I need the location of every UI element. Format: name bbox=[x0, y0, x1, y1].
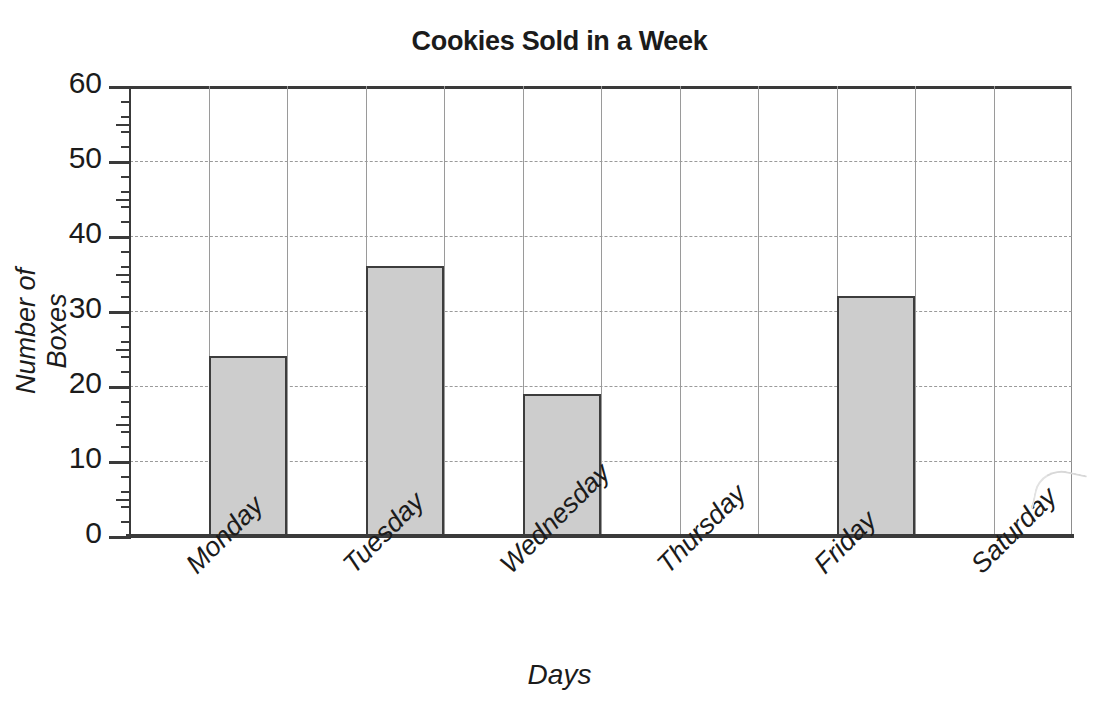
vertical-gridline bbox=[758, 86, 759, 536]
y-axis-minor-tick bbox=[121, 416, 131, 418]
y-axis-mid-tick bbox=[116, 124, 131, 126]
y-axis-minor-tick bbox=[121, 266, 131, 268]
vertical-gridline bbox=[287, 86, 288, 536]
y-axis-minor-tick bbox=[121, 371, 131, 373]
y-axis-minor-tick bbox=[121, 101, 131, 103]
y-axis-minor-tick bbox=[121, 491, 131, 493]
y-axis-mid-tick bbox=[116, 274, 131, 276]
y-axis-tick-label: 50 bbox=[40, 141, 102, 175]
x-axis-baseline bbox=[126, 534, 1074, 538]
y-axis-tick-label: 40 bbox=[40, 216, 102, 250]
x-axis-title: Days bbox=[0, 659, 1119, 691]
vertical-gridline bbox=[444, 86, 445, 536]
y-axis-minor-tick bbox=[121, 476, 131, 478]
y-axis-tick-labels: 0102030405060 bbox=[36, 0, 102, 719]
vertical-gridline bbox=[915, 86, 916, 536]
chart-page: Cookies Sold in a Week Number of Boxes 0… bbox=[0, 0, 1119, 719]
y-axis-minor-tick bbox=[121, 326, 131, 328]
y-axis-mid-tick bbox=[116, 349, 131, 351]
y-axis-minor-tick bbox=[121, 341, 131, 343]
chart-title: Cookies Sold in a Week bbox=[0, 26, 1119, 57]
bar-friday bbox=[837, 296, 915, 538]
y-axis-minor-tick bbox=[121, 206, 131, 208]
y-axis-minor-tick bbox=[121, 296, 131, 298]
y-axis-major-tick bbox=[109, 161, 131, 164]
y-axis-minor-tick bbox=[121, 281, 131, 283]
y-axis-tick-label: 0 bbox=[40, 516, 102, 550]
y-axis-minor-tick bbox=[121, 131, 131, 133]
y-axis-minor-tick bbox=[121, 221, 131, 223]
y-axis-tick-label: 20 bbox=[40, 366, 102, 400]
vertical-gridline bbox=[994, 86, 995, 536]
y-axis-minor-tick bbox=[121, 176, 131, 178]
y-axis-minor-tick bbox=[121, 251, 131, 253]
y-axis-minor-tick bbox=[121, 116, 131, 118]
y-axis-minor-tick bbox=[121, 446, 131, 448]
y-axis-minor-tick bbox=[121, 521, 131, 523]
y-axis-minor-tick bbox=[121, 401, 131, 403]
y-axis-minor-tick bbox=[121, 356, 131, 358]
y-axis-tick-label: 10 bbox=[40, 441, 102, 475]
y-axis-minor-tick bbox=[121, 146, 131, 148]
y-axis-mid-tick bbox=[116, 199, 131, 201]
y-axis-major-tick bbox=[109, 311, 131, 314]
y-axis-major-tick bbox=[109, 536, 131, 539]
vertical-gridline bbox=[680, 86, 681, 536]
y-axis-minor-tick bbox=[121, 506, 131, 508]
y-axis-minor-tick bbox=[121, 191, 131, 193]
y-axis-tick-label: 30 bbox=[40, 291, 102, 325]
y-axis-major-tick bbox=[109, 386, 131, 389]
y-axis-major-tick bbox=[109, 236, 131, 239]
y-axis-minor-tick bbox=[121, 431, 131, 433]
y-axis-tick-label: 60 bbox=[40, 66, 102, 100]
y-axis-mid-tick bbox=[116, 499, 131, 501]
y-axis-mid-tick bbox=[116, 424, 131, 426]
y-axis-major-tick bbox=[109, 461, 131, 464]
y-axis-major-tick bbox=[109, 86, 131, 89]
